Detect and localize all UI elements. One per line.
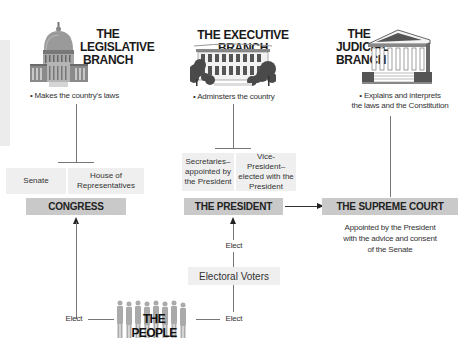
house-box: House of Representatives: [68, 168, 144, 194]
legislative-duty: • Makes the country's laws: [30, 91, 130, 101]
congress-label: CONGRESS: [48, 201, 104, 212]
electoral-upper-line-bottom: [233, 252, 234, 267]
note-line1: Appointed by the President: [330, 222, 450, 233]
elect-left-label: Elect: [62, 314, 86, 324]
judicial-duty-line2: the laws and the Constitution: [340, 101, 460, 111]
executive-duty: • Adminsters the country: [193, 92, 293, 102]
electoral-upper-line-top: [233, 222, 234, 240]
electoral-voters-label: Electoral Voters: [199, 271, 269, 282]
judicial-connector: [390, 116, 391, 197]
electoral-lower-line: [233, 285, 234, 312]
supreme-court-note: Appointed by the President with the advi…: [330, 222, 450, 255]
president-label: THE PRESIDENT: [195, 201, 272, 212]
note-line3: of the Senate: [330, 244, 450, 255]
left-edge-strip: [0, 40, 10, 146]
president-box: THE PRESIDENT: [184, 198, 283, 215]
legislative-title-line3: BRANCH: [80, 54, 136, 67]
elect-right-label: Elect: [222, 314, 246, 324]
appoints-arrow-line: [285, 206, 320, 207]
vice-president-box: Vice-President– elected with the Preside…: [236, 153, 296, 191]
executive-connector: [233, 104, 234, 148]
judicial-duty-line1: • Explains and interprets: [340, 91, 460, 101]
electoral-voters-box: Electoral Voters: [188, 267, 280, 285]
judicial-duty: • Explains and interprets the laws and t…: [340, 91, 460, 111]
supreme-court-building-icon: [362, 28, 434, 86]
secretaries-label: Secretaries– appointed by the President: [183, 157, 233, 187]
vice-president-label: Vice-President– elected with the Preside…: [238, 152, 294, 192]
the-people-label: THE PEOPLE: [124, 312, 184, 340]
legislative-title: THE LEGISLATIVE BRANCH: [80, 28, 136, 67]
senate-box: Senate: [6, 168, 66, 194]
white-house-icon: [190, 43, 276, 88]
congress-box: CONGRESS: [26, 198, 126, 215]
executive-split-line: [215, 148, 251, 149]
elect-right-line: [196, 319, 220, 320]
legislative-connector: [76, 104, 77, 162]
senate-label: Senate: [23, 176, 48, 186]
arrow-up-icon: [230, 217, 236, 224]
supreme-court-label: THE SUPREME COURT: [336, 201, 443, 212]
house-label: House of Representatives: [74, 171, 138, 191]
note-line2: with the advice and consent: [330, 233, 450, 244]
elect-president-label: Elect: [222, 241, 246, 251]
congress-elect-line: [76, 222, 77, 319]
elect-left-line: [88, 319, 114, 320]
supreme-court-box: THE SUPREME COURT: [322, 198, 458, 215]
legislative-split-line: [58, 162, 94, 163]
secretaries-box: Secretaries– appointed by the President: [182, 153, 234, 191]
